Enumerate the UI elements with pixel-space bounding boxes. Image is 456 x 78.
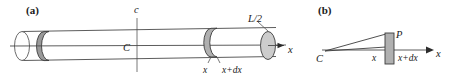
center-plane-label-c: c (134, 4, 139, 15)
slab-right-tick (217, 57, 220, 63)
panel-b-axis-arrowhead (426, 47, 434, 54)
panel-b-group: (b) C P x x+dx x (316, 4, 441, 64)
half-length-label: L/2 (247, 13, 263, 24)
slab-element-b (385, 33, 394, 64)
cylinder-top-edge (22, 28, 276, 32)
slab-element-a (204, 28, 217, 57)
panel-b-axis-label: x (435, 48, 441, 59)
panel-a-group: (a) c C L/2 x x+dx x (10, 4, 293, 75)
slab-right-label-a: x+dx (221, 65, 242, 75)
panel-a-axis-label: x (287, 44, 293, 55)
cone-upper-edge (325, 34, 386, 51)
slab-point-label-P: P (395, 29, 403, 40)
panel-a-label: (a) (26, 4, 39, 17)
panel-a-axis-line (10, 45, 286, 46)
panel-b-label: (b) (318, 4, 332, 17)
figure-canvas: (a) c C L/2 x x+dx x (b) C P x x+dx x (0, 0, 456, 78)
slab-left-label-b: x (371, 53, 377, 63)
center-point-label-C: C (123, 42, 131, 53)
panel-a-axis-arrowhead (278, 43, 285, 48)
apex-label-C: C (316, 53, 324, 64)
slab-right-label-b: x+dx (397, 53, 418, 63)
cylinder-bottom-edge (22, 57, 276, 61)
slab-left-label-a: x (202, 65, 208, 75)
physics-figure: (a) c C L/2 x x+dx x (b) C P x x+dx x (0, 0, 456, 78)
